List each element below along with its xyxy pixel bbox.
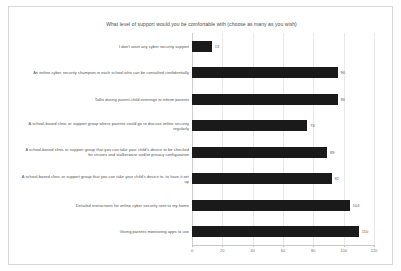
x-axis-tick-label: 40 [250, 248, 254, 253]
bar-and-value: 89 [192, 139, 334, 166]
bar [192, 41, 212, 52]
category-label: Detailed instructions for online cyber s… [21, 203, 189, 208]
category-label: A school-based clinic or support group t… [21, 147, 189, 157]
x-axis-tick-mark [222, 245, 223, 247]
bar-value-label: 96 [341, 97, 345, 102]
x-axis-tick-mark [344, 245, 345, 247]
x-axis-tick-label: 20 [220, 248, 224, 253]
bar [192, 200, 350, 211]
bar-value-label: 89 [330, 150, 334, 155]
x-axis-tick-mark [283, 245, 284, 247]
category-label: Talks during parent-child evenings to in… [21, 97, 189, 102]
x-axis-tick-mark [253, 245, 254, 247]
bar [192, 67, 338, 78]
bar-value-label: 76 [310, 123, 314, 128]
bar-row: A school-based clinic or support group w… [9, 113, 394, 140]
category-label: A school-based clinic or support group w… [21, 121, 189, 131]
category-label: I don't want any cyber security support [21, 44, 189, 49]
bar-row: A school-based clinic or support group t… [9, 166, 394, 193]
bar-and-value: 96 [192, 86, 345, 113]
category-label: Giving parents monitoring apps to use [21, 229, 189, 234]
bar-value-label: 96 [341, 70, 345, 75]
bar-value-label: 110 [362, 229, 368, 234]
bar-row: A school-based clinic or support group t… [9, 139, 394, 166]
bar-row: Giving parents monitoring apps to use110 [9, 219, 394, 246]
bar-row: An online cyber security champion in eac… [9, 60, 394, 87]
x-axis-tick-label: 0 [191, 248, 193, 253]
bar-row: Talks during parent-child evenings to in… [9, 86, 394, 113]
bar-value-label: 104 [353, 203, 360, 208]
bar [192, 147, 327, 158]
x-axis-tick-mark [374, 245, 375, 247]
bar [192, 173, 332, 184]
bar-row: Detailed instructions for online cyber s… [9, 192, 394, 219]
bar [192, 226, 359, 237]
x-axis-tick-label: 100 [340, 248, 347, 253]
bar-and-value: 96 [192, 60, 345, 87]
plot-area: I don't want any cyber security support1… [9, 7, 394, 266]
x-axis-tick-mark [313, 245, 314, 247]
bar [192, 120, 307, 131]
category-label: An online cyber security champion in eac… [21, 70, 189, 75]
x-axis-tick-label: 60 [281, 248, 285, 253]
bar-and-value: 13 [192, 33, 219, 60]
x-axis-tick-labels: 020406080100120 [192, 248, 374, 258]
bar [192, 94, 338, 105]
bar-series: I don't want any cyber security support1… [9, 33, 394, 245]
bar-value-label: 13 [215, 44, 219, 49]
bar-and-value: 92 [192, 166, 339, 193]
bar-value-label: 92 [335, 176, 339, 181]
chart-container: What level of support would you be comfo… [8, 6, 393, 265]
x-axis-tick-label: 120 [371, 248, 378, 253]
bar-and-value: 104 [192, 192, 359, 219]
x-axis-tick-label: 80 [311, 248, 315, 253]
bar-row: I don't want any cyber security support1… [9, 33, 394, 60]
bar-and-value: 110 [192, 219, 368, 246]
x-axis-tick-mark [192, 245, 193, 247]
bar-and-value: 76 [192, 113, 315, 140]
category-label: A school-based clinic or support group t… [21, 174, 189, 184]
